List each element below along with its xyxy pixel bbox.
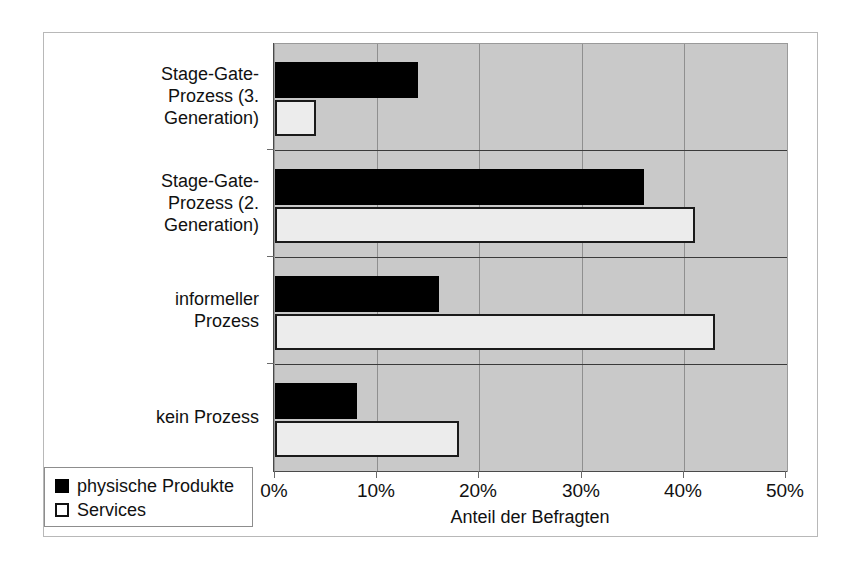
x-axis-tick-label-20: 20% [443,480,513,502]
x-axis-tick-label-30: 30% [546,480,616,502]
outlined-white-square-icon [55,503,69,517]
bar-physische-produkte[interactable] [275,169,644,205]
y-axis-tick [267,363,274,364]
category-band [275,44,787,150]
category-label-kein-prozess: kein Prozess [59,406,259,428]
bar-physische-produkte[interactable] [275,62,418,98]
chart-legend: physische Produkte Services [44,467,253,527]
legend-label: physische Produkte [77,476,234,497]
legend-item-services[interactable]: Services [55,498,252,522]
x-axis-tick [274,471,275,478]
bar-physische-produkte[interactable] [275,276,439,312]
category-label-stage-gate-2: Stage-Gate- Prozess (2. Generation) [59,170,259,236]
x-axis-title: Anteil der Befragten [274,507,786,528]
y-axis-line [273,43,274,471]
category-band [275,257,787,364]
bar-physische-produkte[interactable] [275,383,357,419]
legend-label: Services [77,500,146,521]
x-axis-tick [581,471,582,478]
legend-item-physische-produkte[interactable]: physische Produkte [55,474,252,498]
category-label-informeller-prozess: informeller Prozess [59,288,259,332]
x-axis-tick-label-10: 10% [341,480,411,502]
y-axis-tick [267,149,274,150]
x-axis-tick [785,471,786,478]
x-axis-tick [376,471,377,478]
x-axis-tick-label-50: 50% [750,480,820,502]
bar-services[interactable] [275,421,459,457]
filled-black-square-icon [55,479,69,493]
chart-figure: Stage-Gate- Prozess (3. Generation) Stag… [43,32,818,537]
y-axis-tick [267,256,274,257]
x-axis-line [273,471,787,472]
plot-area [274,43,788,472]
bar-services[interactable] [275,314,715,350]
bar-services[interactable] [275,100,316,136]
category-label-stage-gate-3: Stage-Gate- Prozess (3. Generation) [59,63,259,129]
x-axis-tick [683,471,684,478]
category-band [275,364,787,471]
category-band [275,150,787,257]
bar-services[interactable] [275,207,695,243]
x-axis-tick-label-40: 40% [648,480,718,502]
x-axis-tick [478,471,479,478]
